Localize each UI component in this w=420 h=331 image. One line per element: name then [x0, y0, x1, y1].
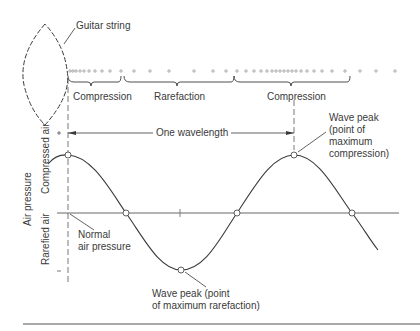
guitar-string-shape: [23, 24, 68, 125]
max-peak-pointer: [298, 132, 326, 152]
arrow-left-icon: [68, 131, 76, 135]
guitar-string-pointer: [64, 28, 75, 44]
compression-label-1: Compression: [73, 91, 132, 102]
compressed-air-label: Compressed air: [40, 123, 51, 194]
max-rarefaction-label: Wave peak (point of maximum rarefaction): [152, 288, 260, 312]
one-wavelength-label: One wavelength: [153, 127, 231, 138]
compression-label-2: Compression: [267, 91, 326, 102]
min-peak-pointer: [185, 272, 206, 287]
normal-pressure-label: Normal air pressure: [78, 229, 131, 253]
sound-wave-diagram: [0, 0, 420, 331]
guitar-string-label: Guitar string: [76, 20, 130, 31]
rarefaction-label: Rarefaction: [154, 91, 205, 102]
y-axis-label: Air pressure: [22, 172, 33, 226]
arrow-right-icon: [286, 131, 294, 135]
max-compression-label: Wave peak (point of maximum compression): [329, 112, 389, 160]
rarefied-air-label: Rarefied air: [40, 213, 51, 265]
air-molecule-dots: [69, 70, 396, 72]
normal-pressure-pointer: [70, 214, 94, 230]
region-braces: [68, 76, 350, 86]
